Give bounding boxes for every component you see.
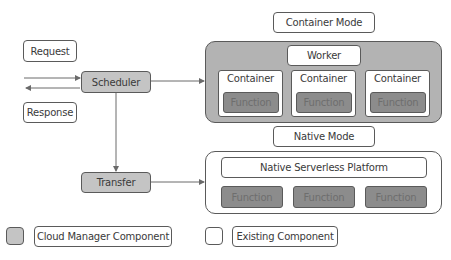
transfer-node: Transfer (81, 172, 151, 193)
worker-label-box: Worker (287, 45, 361, 66)
legend-label-existing: Existing Component (232, 226, 338, 247)
function-node: Function (223, 92, 279, 113)
container-node-1: Container Function (218, 70, 283, 117)
native-function-node-3: Function (365, 186, 427, 208)
function-node: Function (296, 92, 352, 113)
connector-lines (0, 0, 451, 260)
legend-swatch-existing (205, 227, 223, 245)
native-function-node-1: Function (221, 186, 283, 208)
container-mode-title: Container Mode (273, 12, 375, 33)
native-serverless-platform-box: Native Serverless Platform (221, 157, 427, 178)
container-label: Container (292, 73, 355, 84)
native-mode-title: Native Mode (273, 126, 375, 147)
response-label-box: Response (23, 102, 77, 123)
container-label: Container (366, 73, 429, 84)
container-label: Container (219, 73, 282, 84)
legend-swatch-cloud-manager (6, 227, 24, 245)
container-node-3: Container Function (365, 70, 430, 117)
native-function-node-2: Function (293, 186, 355, 208)
request-label-box: Request (23, 40, 77, 62)
container-node-2: Container Function (291, 70, 356, 117)
scheduler-node: Scheduler (81, 71, 151, 93)
legend-label-cloud-manager: Cloud Manager Component (34, 226, 172, 247)
function-node: Function (370, 92, 426, 113)
